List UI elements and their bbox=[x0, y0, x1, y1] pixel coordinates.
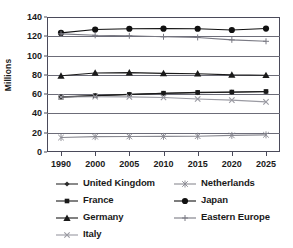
legend-marker-square-icon bbox=[55, 193, 79, 205]
x-tick-label: 1990 bbox=[51, 159, 71, 169]
x-tick-mark bbox=[129, 152, 130, 156]
legend-label: United Kingdom bbox=[83, 177, 155, 188]
data-point-circle bbox=[195, 26, 201, 32]
data-point-plus bbox=[229, 37, 235, 43]
x-tick-label: 2020 bbox=[222, 159, 242, 169]
data-point-diamond bbox=[64, 181, 69, 186]
data-point-circle bbox=[126, 26, 132, 32]
y-axis-title: Millions bbox=[3, 45, 13, 105]
legend-label: France bbox=[83, 194, 114, 205]
legend-label: Germany bbox=[83, 211, 124, 222]
series-netherlands bbox=[58, 131, 269, 141]
x-tick-label: 2005 bbox=[119, 159, 139, 169]
y-tick-label: 40 bbox=[32, 108, 42, 118]
legend-item-france[interactable]: France bbox=[55, 193, 114, 205]
legend-marker-star-icon bbox=[173, 176, 197, 188]
data-point-circle bbox=[160, 26, 166, 32]
legend-item-eastern-europe[interactable]: Eastern Europe bbox=[173, 210, 270, 222]
x-tick-mark bbox=[198, 152, 199, 156]
data-point-square bbox=[161, 91, 166, 96]
data-point-circle bbox=[182, 198, 188, 204]
legend-item-netherlands[interactable]: Netherlands bbox=[173, 176, 255, 188]
chart-figure: Millions 020406080100120140 199020002005… bbox=[0, 0, 293, 248]
data-point-square bbox=[127, 92, 132, 97]
data-point-square bbox=[264, 89, 269, 94]
legend-item-germany[interactable]: Germany bbox=[55, 210, 124, 222]
legend-marker-diamond-icon bbox=[55, 176, 79, 188]
legend-item-united-kingdom[interactable]: United Kingdom bbox=[55, 176, 155, 188]
data-point-square bbox=[230, 90, 235, 95]
y-tick-label: 20 bbox=[32, 128, 42, 138]
legend-item-japan[interactable]: Japan bbox=[173, 193, 228, 205]
series-layer bbox=[47, 17, 280, 152]
x-tick-mark bbox=[266, 152, 267, 156]
x-tick-mark bbox=[61, 152, 62, 156]
legend-label: Italy bbox=[83, 228, 102, 239]
data-point-circle bbox=[263, 25, 269, 31]
data-point-plus bbox=[161, 34, 167, 40]
data-point-plus bbox=[92, 32, 98, 38]
x-tick-label: 2015 bbox=[188, 159, 208, 169]
y-tick-label: 140 bbox=[27, 12, 42, 22]
plot-area: 020406080100120140 199020002005201020152… bbox=[47, 17, 280, 152]
data-point-plus bbox=[195, 34, 201, 40]
data-point-circle bbox=[229, 27, 235, 33]
data-point-square bbox=[65, 199, 70, 204]
x-tick-mark bbox=[164, 152, 165, 156]
legend-label: Eastern Europe bbox=[201, 211, 270, 222]
y-tick-label: 80 bbox=[32, 70, 42, 80]
x-tick-mark bbox=[232, 152, 233, 156]
legend-label: Japan bbox=[201, 194, 228, 205]
series-germany bbox=[57, 69, 269, 79]
chart-legend: United KingdomNetherlandsFranceJapanGerm… bbox=[55, 176, 293, 246]
x-tick-label: 2010 bbox=[153, 159, 173, 169]
legend-marker-x-icon bbox=[55, 227, 79, 239]
data-point-square bbox=[195, 90, 200, 95]
y-tick-label: 60 bbox=[32, 89, 42, 99]
series-eastern-europe bbox=[58, 31, 269, 44]
legend-marker-plus-icon bbox=[173, 210, 197, 222]
x-tick-label: 2000 bbox=[85, 159, 105, 169]
data-point-plus bbox=[126, 33, 132, 39]
data-point-plus bbox=[182, 215, 188, 221]
data-point-circle bbox=[92, 26, 98, 32]
legend-item-italy[interactable]: Italy bbox=[55, 227, 102, 239]
data-point-plus bbox=[263, 38, 269, 44]
x-tick-label: 2025 bbox=[256, 159, 276, 169]
legend-marker-circle-icon bbox=[173, 193, 197, 205]
x-tick-mark bbox=[95, 152, 96, 156]
y-tick-label: 100 bbox=[27, 51, 42, 61]
legend-label: Netherlands bbox=[201, 177, 255, 188]
y-tick-label: 0 bbox=[37, 147, 42, 157]
y-tick-label: 120 bbox=[27, 31, 42, 41]
legend-marker-triangle-icon bbox=[55, 210, 79, 222]
